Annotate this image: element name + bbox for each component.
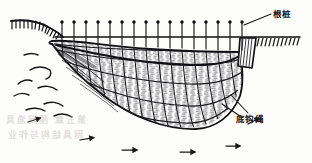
net-end-wall xyxy=(238,38,256,68)
shore-slope xyxy=(11,20,63,39)
label-bottom-hook-rope: 底钩绳 xyxy=(236,115,264,124)
pile-leader-line xyxy=(244,14,271,25)
water-marks xyxy=(14,54,72,118)
bleedthrough-text-line-2: 网具结构与作业 xyxy=(6,131,83,140)
pile-heads xyxy=(60,20,243,23)
right-bank-hatch xyxy=(257,38,299,46)
figure-net-cross-section: 根桩 底钩绳 第五章 围网渔具 网具结构与作业 xyxy=(0,0,312,163)
label-pile: 根桩 xyxy=(273,10,292,19)
bleedthrough-text-line-1: 第五章 围网渔具 xyxy=(4,116,86,125)
